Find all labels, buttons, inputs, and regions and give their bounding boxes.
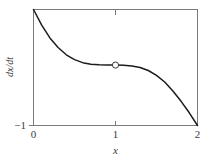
plot-svg: 0 1 2 −1 x dx/dt [0, 0, 213, 160]
y-axis-label: dx/dt [4, 57, 15, 77]
ytick-label-min: −1 [14, 119, 26, 131]
axis-ticks [29, 10, 116, 126]
xtick-label-1: 1 [113, 128, 119, 140]
xtick-label-0: 0 [31, 128, 37, 140]
equilibrium-marker [112, 62, 118, 68]
xtick-label-2: 2 [195, 128, 201, 140]
y-axis-label-text: dx/dt [4, 57, 15, 77]
x-axis-label: x [112, 144, 118, 156]
chart-figure: 0 1 2 −1 x dx/dt [0, 0, 213, 160]
open-circle-icon [112, 62, 118, 68]
